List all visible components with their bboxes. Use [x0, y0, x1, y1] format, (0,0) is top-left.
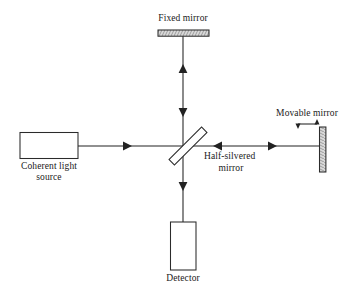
- fixed-mirror-shape: [158, 30, 209, 36]
- arrowhead-source-right: [123, 142, 132, 151]
- coherent-light-source-label-line2: source: [36, 172, 61, 183]
- diagram-canvas: [0, 0, 352, 295]
- arrowhead-right-to-movable-mirror: [268, 142, 277, 151]
- movable-mirror-shape: [320, 127, 326, 172]
- interferometer-diagram: Fixed mirror Coherent light source Half-…: [0, 0, 352, 295]
- arrowhead-up-to-fixed-mirror: [179, 64, 188, 73]
- half-silvered-mirror-label-line1: Half-silvered: [204, 151, 255, 162]
- movable-mirror-label: Movable mirror: [276, 108, 338, 119]
- arrowhead-left-from-movable-mirror: [213, 142, 222, 151]
- half-silvered-mirror-label-line2: mirror: [219, 163, 244, 174]
- coherent-light-source-label-line1: Coherent light: [21, 161, 77, 172]
- beam-arrowheads: [123, 64, 277, 191]
- arrowhead-down-to-detector: [179, 182, 188, 191]
- coherent-light-source-shape: [20, 133, 78, 159]
- arrowhead-down-from-fixed-mirror: [179, 108, 188, 117]
- detector-shape: [171, 222, 197, 270]
- fixed-mirror-label: Fixed mirror: [158, 13, 207, 24]
- detector-label: Detector: [166, 273, 200, 284]
